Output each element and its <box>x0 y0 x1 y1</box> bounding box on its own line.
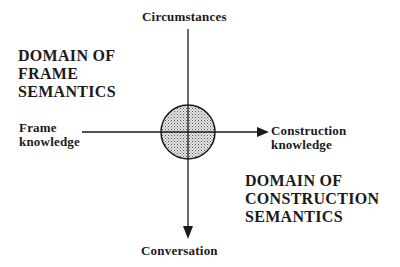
domain-frame-semantics: DOMAIN OF FRAME SEMANTICS <box>18 47 116 101</box>
axis-label-construction-line1: Construction <box>271 124 346 138</box>
right-arrowhead-icon <box>257 127 269 137</box>
domain-construction-line3: SEMANTICS <box>245 208 379 226</box>
axis-label-construction-knowledge: Construction knowledge <box>271 124 346 152</box>
down-arrowhead-icon <box>183 226 193 239</box>
domain-construction-line2: CONSTRUCTION <box>245 190 379 208</box>
axis-label-construction-line2: knowledge <box>271 138 346 152</box>
axis-label-circumstances: Circumstances <box>142 10 227 24</box>
domain-construction-semantics: DOMAIN OF CONSTRUCTION SEMANTICS <box>245 172 379 226</box>
domain-frame-line1: DOMAIN OF <box>18 47 116 65</box>
domain-construction-line1: DOMAIN OF <box>245 172 379 190</box>
domain-frame-line2: FRAME <box>18 65 116 83</box>
axis-label-frame-knowledge: Frame knowledge <box>19 121 80 149</box>
axis-label-frame-line2: knowledge <box>19 135 80 149</box>
axis-label-conversation: Conversation <box>141 244 218 258</box>
axis-label-frame-line1: Frame <box>19 121 80 135</box>
domain-frame-line3: SEMANTICS <box>18 83 116 101</box>
diagram-canvas: Circumstances Conversation Frame knowled… <box>0 0 400 267</box>
